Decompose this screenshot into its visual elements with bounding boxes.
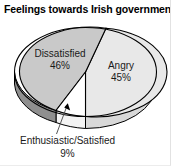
slice-label-dissatisfied-name: Dissatisfied xyxy=(34,48,85,59)
slice-label-enthusiastic-name: Enthusiastic/Satisfied xyxy=(20,135,115,146)
slice-label-dissatisfied-value: 46% xyxy=(22,60,98,72)
slice-label-angry-value: 45% xyxy=(96,72,146,84)
slice-label-angry: Angry 45% xyxy=(96,60,146,83)
slice-label-angry-name: Angry xyxy=(108,60,134,71)
slice-label-enthusiastic-value: 9% xyxy=(0,148,135,161)
slice-label-enthusiastic: Enthusiastic/Satisfied 9% xyxy=(0,135,135,160)
slice-label-dissatisfied: Dissatisfied 46% xyxy=(22,48,98,71)
pie-chart-figure: Feelings towards Irish government Dissat… xyxy=(0,0,171,166)
